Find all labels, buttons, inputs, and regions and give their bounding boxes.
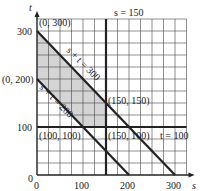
y-tick-label: 0 xyxy=(28,173,33,184)
annotation-100-100: (100, 100) xyxy=(39,130,81,142)
line-label-s-150: s = 150 xyxy=(114,7,144,18)
chart: t s 0 100 200 300 0 100 300 (0, 300) (0,… xyxy=(0,0,200,191)
annotation-0-200: (0, 200) xyxy=(2,74,34,86)
x-tick-label: 0 xyxy=(34,180,39,191)
annotation-150-100: (150, 100) xyxy=(108,130,150,142)
annotation-0-300: (0, 300) xyxy=(39,17,71,29)
annotation-150-150: (150, 150) xyxy=(108,95,150,107)
y-tick-label: 100 xyxy=(17,122,32,133)
x-axis-label: s xyxy=(192,180,196,191)
x-axis-arrow-icon xyxy=(189,173,195,178)
line-label-t-100: t = 100 xyxy=(160,130,188,141)
x-tick-label: 200 xyxy=(120,180,135,191)
x-tick-label: 100 xyxy=(74,180,89,191)
y-tick-label: 300 xyxy=(17,26,32,37)
x-tick-label: 300 xyxy=(166,180,181,191)
y-axis-label: t xyxy=(29,2,32,13)
